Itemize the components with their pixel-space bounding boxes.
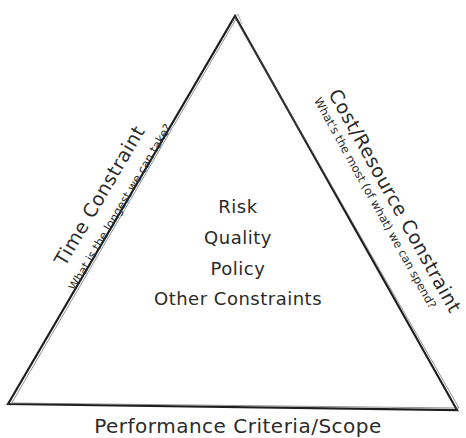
center-item-risk: Risk [118,196,358,217]
center-item-other-constraints: Other Constraints [118,288,358,309]
center-item-quality: Quality [118,227,358,248]
performance-scope-title: Performance Criteria/Scope [78,414,398,438]
center-item-policy: Policy [118,258,358,279]
